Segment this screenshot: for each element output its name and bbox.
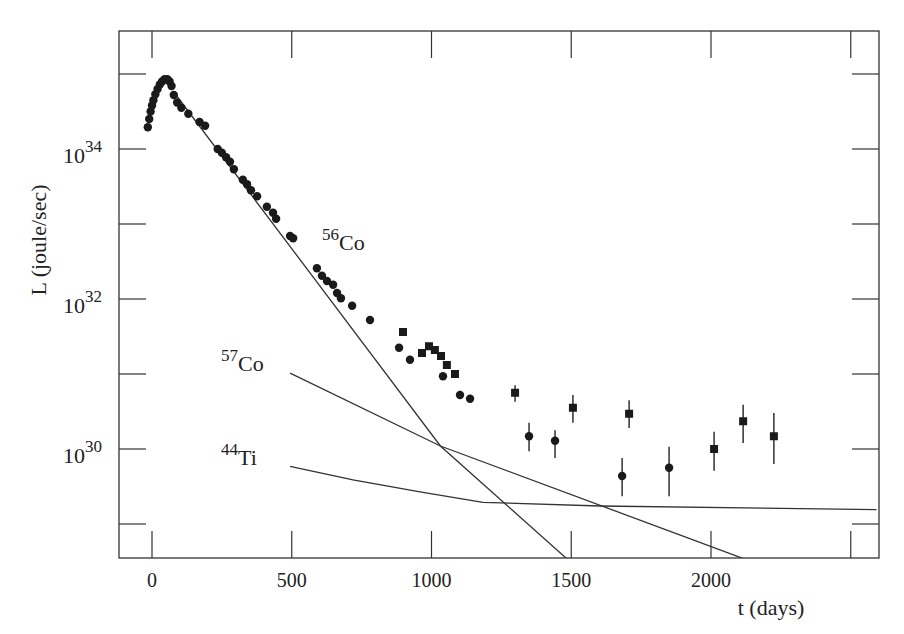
annotation-57Co: 57Co	[221, 346, 264, 376]
square-marker	[770, 432, 778, 440]
data-points	[144, 75, 778, 496]
curve-57Co	[290, 373, 745, 559]
axis-ticks	[119, 31, 879, 558]
circle-marker	[230, 165, 238, 173]
square-marker	[739, 417, 747, 425]
circle-marker	[337, 294, 345, 302]
circle-marker	[348, 302, 356, 310]
square-marker	[710, 445, 718, 453]
circle-marker	[525, 432, 533, 440]
circle-marker	[313, 264, 321, 272]
plot-frame	[119, 31, 879, 558]
square-marker	[451, 370, 459, 378]
x-tick-label: 1500	[551, 569, 591, 591]
circle-marker	[177, 104, 185, 112]
circle-marker	[226, 158, 234, 166]
model-curves	[176, 95, 877, 559]
square-marker	[399, 328, 407, 336]
plot-border	[119, 31, 879, 558]
circle-marker	[439, 372, 447, 380]
x-tick-label: 2000	[691, 569, 731, 591]
circle-marker	[263, 203, 271, 211]
circle-marker	[329, 281, 337, 289]
x-tick-label: 500	[277, 569, 307, 591]
circle-marker	[551, 437, 559, 445]
y-tick-label: 1032	[63, 287, 102, 318]
circle-marker	[272, 215, 280, 223]
annotation-56Co: 56Co	[322, 225, 365, 255]
square-marker	[418, 349, 426, 357]
circle-marker	[170, 91, 178, 99]
square-marker	[625, 410, 633, 418]
annotation-44Ti: 44Ti	[221, 440, 257, 470]
x-tick-label: 1000	[412, 569, 452, 591]
circle-marker	[167, 82, 175, 90]
circle-marker	[145, 115, 153, 123]
chart: 0500100015002000103010321034t (days)L (j…	[0, 0, 904, 634]
y-tick-label: 1030	[63, 437, 102, 468]
circle-marker	[466, 395, 474, 403]
circle-marker	[184, 110, 192, 118]
circle-marker	[406, 356, 414, 364]
circle-marker	[247, 186, 255, 194]
circle-marker	[144, 123, 152, 131]
y-axis-label: L (joule/sec)	[26, 185, 51, 296]
circle-marker	[366, 316, 374, 324]
square-marker	[443, 361, 451, 369]
circle-marker	[456, 391, 464, 399]
circle-marker	[201, 122, 209, 130]
circle-marker	[253, 192, 261, 200]
square-marker	[437, 352, 445, 360]
circle-marker	[618, 472, 626, 480]
labels: 0500100015002000103010321034t (days)L (j…	[26, 137, 804, 620]
circle-marker	[665, 464, 673, 472]
x-tick-label: 0	[147, 569, 157, 591]
circle-marker	[289, 234, 297, 242]
curve-56Co	[176, 95, 567, 559]
square-marker	[569, 404, 577, 412]
x-axis-label: t (days)	[738, 595, 805, 620]
y-tick-label: 1034	[63, 137, 103, 168]
square-marker	[511, 389, 519, 397]
curve-44Ti	[290, 466, 876, 509]
circle-marker	[395, 344, 403, 352]
